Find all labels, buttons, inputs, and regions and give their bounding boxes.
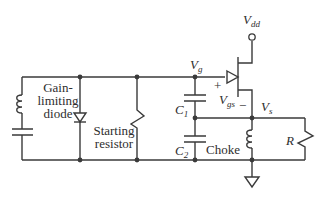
vdd-main: V (243, 12, 251, 27)
label-line: resistor (90, 137, 138, 150)
r-resistor-icon (298, 118, 313, 160)
gain-limiting-diode-label: Gain- limiting diode (32, 81, 84, 120)
plus-sign: + (214, 79, 221, 92)
vg-label: Vg (190, 58, 202, 76)
vs-main: V (261, 99, 269, 114)
c1-main: C (175, 102, 184, 117)
vdd-sub: dd (251, 19, 260, 29)
circuit-diagram: Gain- limiting diode Starting resistor V… (0, 0, 333, 203)
r-label: R (286, 134, 294, 147)
junction-dot (135, 158, 140, 163)
tank-inductor-icon (17, 77, 22, 129)
junction-dot (78, 158, 83, 163)
c1-label: C1 (175, 103, 188, 121)
ground-icon (245, 160, 259, 187)
tank-capacitor-icon (12, 129, 33, 160)
starting-resistor-label: Starting resistor (90, 124, 138, 150)
vg-main: V (190, 57, 198, 72)
vs-sub: s (269, 106, 273, 116)
choke-inductor-icon (247, 118, 252, 160)
c1-sub: 1 (184, 109, 189, 119)
vdd-label: Vdd (243, 13, 260, 31)
label-line: diode (32, 107, 84, 120)
c2-label: C2 (175, 144, 188, 162)
junction-dot (193, 158, 198, 163)
junction-dot (135, 75, 140, 80)
c2-sub: 2 (184, 150, 189, 160)
junction-dot (78, 75, 83, 80)
c2-main: C (175, 143, 184, 158)
vs-label: Vs (261, 100, 272, 118)
vg-sub: g (198, 64, 203, 74)
vdd-terminal-icon (249, 34, 255, 40)
choke-label: Choke (206, 143, 240, 156)
vgs-sub: gs (227, 99, 235, 109)
vgs-label: Vgs (219, 93, 235, 111)
vgs-main: V (219, 92, 227, 107)
minus-sign: − (239, 99, 246, 112)
vs-node-dot (250, 116, 255, 121)
